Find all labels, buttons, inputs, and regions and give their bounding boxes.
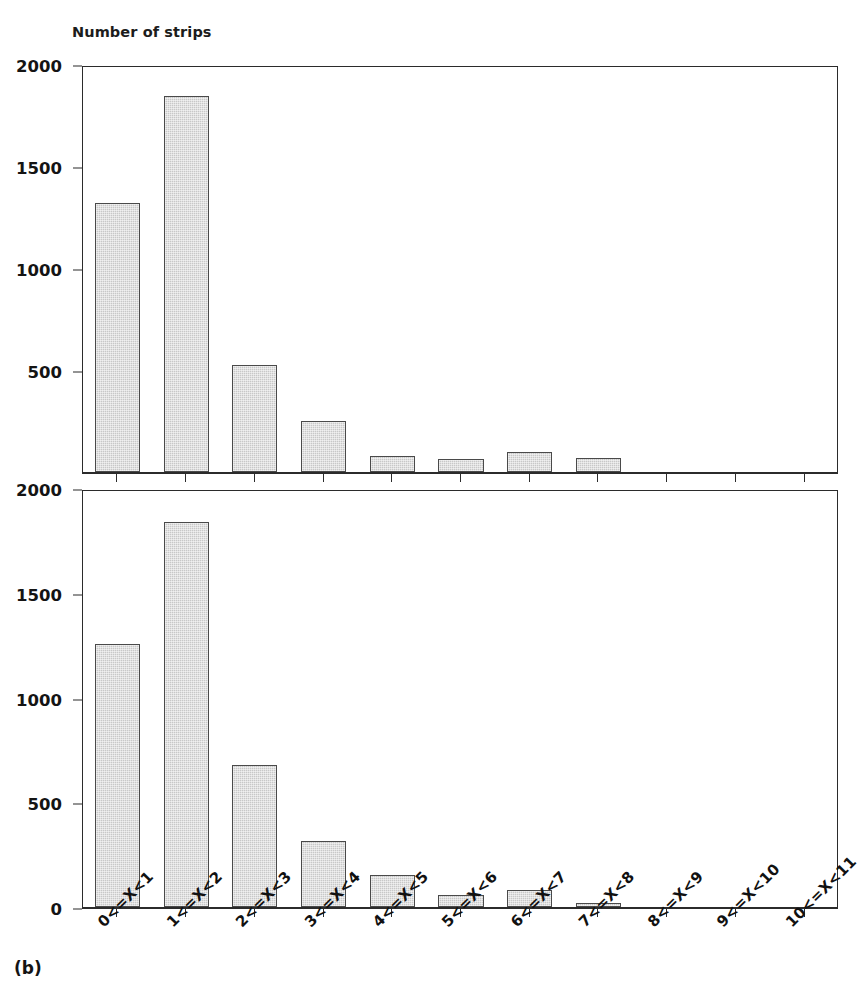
x-axis-ticks-bottom [0, 0, 860, 1005]
x-axis-labels: 0<=X<11<=X<22<=X<33<=X<44<=X<55<=X<66<=X… [0, 912, 860, 1005]
figure-histogram-pair: Number of strips 200015001000500 2000150… [0, 0, 860, 1005]
panel-letter: (b) [14, 958, 42, 978]
